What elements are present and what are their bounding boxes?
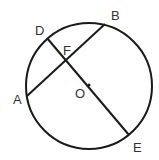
- center-point-o: [88, 84, 91, 87]
- label-a: A: [13, 92, 22, 107]
- label-e: E: [133, 140, 142, 155]
- label-f: F: [63, 43, 71, 58]
- label-o: O: [75, 86, 85, 101]
- circle-diagram: D B F A O E: [0, 0, 159, 160]
- label-d: D: [35, 23, 44, 38]
- chord-de: [47, 38, 129, 135]
- label-b: B: [111, 8, 120, 23]
